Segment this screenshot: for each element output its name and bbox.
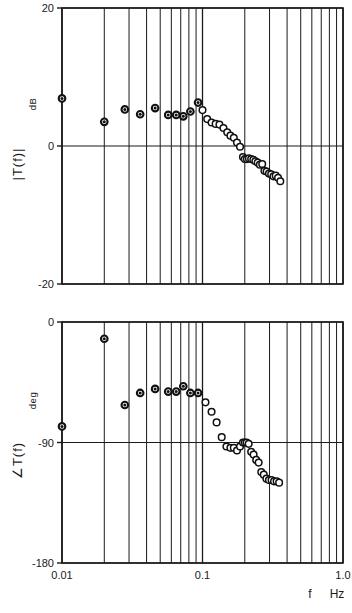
marker-center-dot [103, 120, 106, 123]
data-point [259, 161, 266, 168]
data-point [187, 390, 194, 397]
data-point [165, 112, 172, 119]
data-point [173, 388, 180, 395]
data-point [173, 112, 180, 119]
marker-center-dot [103, 337, 106, 340]
marker-ring [259, 161, 266, 168]
y-axis-unit: dB [27, 98, 38, 111]
data-point [255, 459, 262, 466]
data-point [245, 441, 252, 448]
data-point [180, 383, 187, 390]
marker-center-dot [123, 404, 126, 407]
marker-ring [218, 434, 225, 441]
data-point [276, 479, 283, 486]
data-point [165, 388, 172, 395]
marker-ring [202, 399, 209, 406]
marker-center-dot [139, 391, 142, 394]
marker-center-dot [154, 387, 157, 390]
marker-center-dot [61, 97, 64, 100]
marker-center-dot [123, 108, 126, 111]
marker-ring [213, 419, 220, 426]
data-point [237, 143, 244, 150]
y-tick-label: -180 [32, 557, 54, 569]
marker-ring [277, 178, 284, 185]
data-point [213, 419, 220, 426]
data-point [218, 434, 225, 441]
data-point [59, 423, 66, 430]
marker-center-dot [175, 113, 178, 116]
marker-center-dot [154, 107, 157, 110]
marker-center-dot [139, 113, 142, 116]
y-axis-title: ∠T(f) [10, 442, 25, 479]
marker-center-dot [167, 390, 170, 393]
marker-ring [276, 479, 283, 486]
y-tick-label: -90 [38, 437, 54, 449]
data-point [202, 399, 209, 406]
data-point [101, 335, 108, 342]
y-tick-label: 0 [48, 140, 54, 152]
marker-center-dot [182, 115, 185, 118]
marker-center-dot [189, 110, 192, 113]
data-point [180, 113, 187, 120]
data-point [152, 105, 159, 112]
marker-center-dot [197, 101, 200, 104]
data-point [122, 402, 129, 409]
marker-ring [255, 459, 262, 466]
plot-canvas: 200-20|T(f)|dB 0-90-1800.010.11.0∠T(f)de… [0, 0, 352, 613]
y-axis-unit: deg [27, 392, 38, 409]
data-point [122, 106, 129, 113]
data-point [187, 108, 194, 115]
figure-background [0, 0, 352, 613]
marker-center-dot [189, 391, 192, 394]
y-tick-label: -20 [38, 278, 54, 290]
marker-ring [237, 143, 244, 150]
x-tick-label: 0.01 [51, 569, 72, 581]
marker-center-dot [175, 390, 178, 393]
y-axis-title: |T(f)| [10, 148, 25, 181]
marker-center-dot [61, 425, 64, 428]
marker-ring [199, 107, 206, 114]
bode-plot-figure: 200-20|T(f)|dB 0-90-1800.010.11.0∠T(f)de… [0, 0, 352, 613]
data-point [195, 390, 202, 397]
x-tick-label: 0.1 [195, 569, 210, 581]
marker-center-dot [167, 113, 170, 116]
data-point [137, 111, 144, 118]
data-point [208, 408, 215, 415]
data-point [152, 386, 159, 393]
data-point [277, 178, 284, 185]
y-tick-label: 20 [42, 2, 54, 14]
x-axis-unit: Hz [330, 587, 345, 601]
data-point [101, 119, 108, 126]
data-point [199, 107, 206, 114]
marker-ring [245, 441, 252, 448]
data-point [195, 99, 202, 106]
marker-ring [208, 408, 215, 415]
y-tick-label: 0 [48, 316, 54, 328]
data-point [137, 390, 144, 397]
data-point [59, 95, 66, 102]
marker-center-dot [197, 391, 200, 394]
x-tick-label: 1.0 [335, 569, 350, 581]
marker-center-dot [182, 385, 185, 388]
